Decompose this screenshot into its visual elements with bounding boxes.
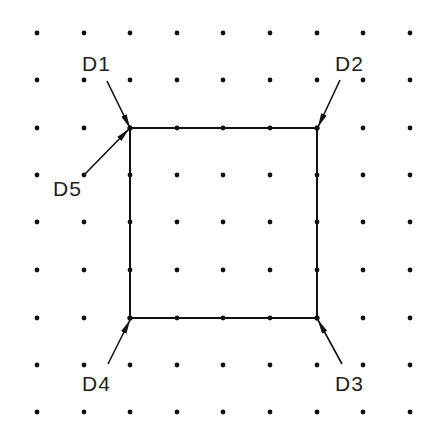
grid-dot <box>268 78 273 83</box>
point-label: D1 <box>82 52 111 75</box>
leader-arrow <box>107 81 130 128</box>
callout-d2: D2 <box>318 52 364 127</box>
grid-dot <box>268 220 273 225</box>
grid-dot <box>221 220 226 225</box>
grid-dot <box>82 410 87 415</box>
grid-dot <box>315 363 320 368</box>
callout-d5: D5 <box>53 129 129 200</box>
grid-dot <box>408 126 413 131</box>
grid-dot <box>128 78 133 83</box>
grid-dot <box>361 31 366 36</box>
grid-dot <box>361 126 366 131</box>
grid-dot <box>82 78 87 83</box>
grid-dot <box>35 220 40 225</box>
grid-dot <box>408 268 413 273</box>
grid-dot <box>268 31 273 36</box>
grid-dot <box>82 31 87 36</box>
grid-dot <box>221 268 226 273</box>
leader-arrow <box>108 320 130 364</box>
grid-dot <box>35 316 40 321</box>
callout-d4: D4 <box>82 320 130 395</box>
grid-dot <box>361 78 366 83</box>
grid-dot <box>175 78 180 83</box>
grid-dot <box>221 173 226 178</box>
snap-grid <box>35 31 413 415</box>
grid-dot <box>315 410 320 415</box>
grid-dot <box>361 220 366 225</box>
grid-dot <box>175 31 180 36</box>
grid-dot <box>35 31 40 36</box>
grid-dot <box>221 410 226 415</box>
grid-dot <box>82 363 87 368</box>
grid-dot <box>315 78 320 83</box>
grid-dot <box>268 268 273 273</box>
grid-dot <box>82 268 87 273</box>
grid-dot <box>268 410 273 415</box>
grid-dot <box>35 410 40 415</box>
grid-dot <box>361 173 366 178</box>
square-vertex <box>314 315 319 320</box>
grid-dot <box>35 268 40 273</box>
grid-dot <box>315 31 320 36</box>
grid-dot <box>128 363 133 368</box>
leader-arrow <box>318 320 342 364</box>
grid-dot <box>361 316 366 321</box>
grid-dot <box>361 410 366 415</box>
point-label: D4 <box>82 372 111 395</box>
grid-dot <box>221 363 226 368</box>
grid-dot <box>175 220 180 225</box>
grid-dot <box>221 31 226 36</box>
grid-dot <box>361 363 366 368</box>
point-label: D3 <box>335 372 364 395</box>
grid-dot <box>408 363 413 368</box>
grid-dot <box>268 173 273 178</box>
grid-dot <box>408 220 413 225</box>
grid-dot <box>408 78 413 83</box>
grid-dot <box>408 31 413 36</box>
grid-dot <box>82 316 87 321</box>
grid-dot <box>128 410 133 415</box>
grid-dot <box>35 173 40 178</box>
leader-arrow <box>318 80 340 127</box>
callout-d1: D1 <box>82 52 130 128</box>
grid-dot <box>408 173 413 178</box>
grid-dot <box>268 363 273 368</box>
point-label: D5 <box>53 177 82 200</box>
square-vertex <box>127 315 132 320</box>
grid-dot <box>175 268 180 273</box>
grid-dot <box>128 31 133 36</box>
grid-dot <box>221 78 226 83</box>
grid-dot <box>361 268 366 273</box>
callout-d3: D3 <box>318 320 364 395</box>
grid-dot <box>175 173 180 178</box>
grid-dot <box>175 363 180 368</box>
grid-dot <box>35 126 40 131</box>
square-drawing-diagram: D1D2D3D4D5 <box>0 0 437 439</box>
grid-dot <box>35 363 40 368</box>
grid-dot <box>408 410 413 415</box>
point-label: D2 <box>335 52 364 75</box>
grid-dot <box>35 78 40 83</box>
grid-dot <box>82 126 87 131</box>
grid-dot <box>82 220 87 225</box>
leader-arrow <box>84 129 129 175</box>
grid-dot <box>408 316 413 321</box>
grid-dot <box>175 410 180 415</box>
